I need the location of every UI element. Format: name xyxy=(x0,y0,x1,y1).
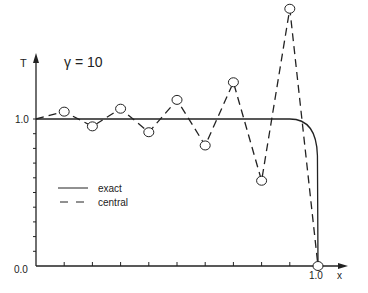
legend: exact central xyxy=(58,183,128,208)
y-tick-label-1: 1.0 xyxy=(15,114,29,125)
chart-title: γ = 10 xyxy=(64,54,103,70)
central-data-point xyxy=(172,95,182,104)
central-data-point xyxy=(116,104,126,113)
central-data-point xyxy=(87,122,97,131)
central-data-point xyxy=(144,128,154,137)
legend-exact-label: exact xyxy=(98,183,122,194)
central-data-point xyxy=(257,176,267,185)
legend-central-label: central xyxy=(98,197,128,208)
x-axis-arrow-icon xyxy=(338,263,348,269)
central-series-line xyxy=(36,9,318,266)
central-data-point xyxy=(59,107,69,116)
exact-series-line xyxy=(36,119,318,266)
central-data-point xyxy=(228,78,238,87)
origin-label: 0.0 xyxy=(14,264,28,275)
chart: T γ = 10 1.0 0.0 1.0 x exact central xyxy=(0,0,368,293)
central-data-point xyxy=(313,262,323,271)
y-axis-label: T xyxy=(20,57,27,69)
central-data-point xyxy=(285,4,295,13)
y-axis-arrow-icon xyxy=(33,53,39,63)
axes xyxy=(33,53,348,269)
central-data-point xyxy=(200,141,210,150)
x-axis-label: x xyxy=(337,270,342,281)
x-tick-label-1: 1.0 xyxy=(309,270,323,281)
